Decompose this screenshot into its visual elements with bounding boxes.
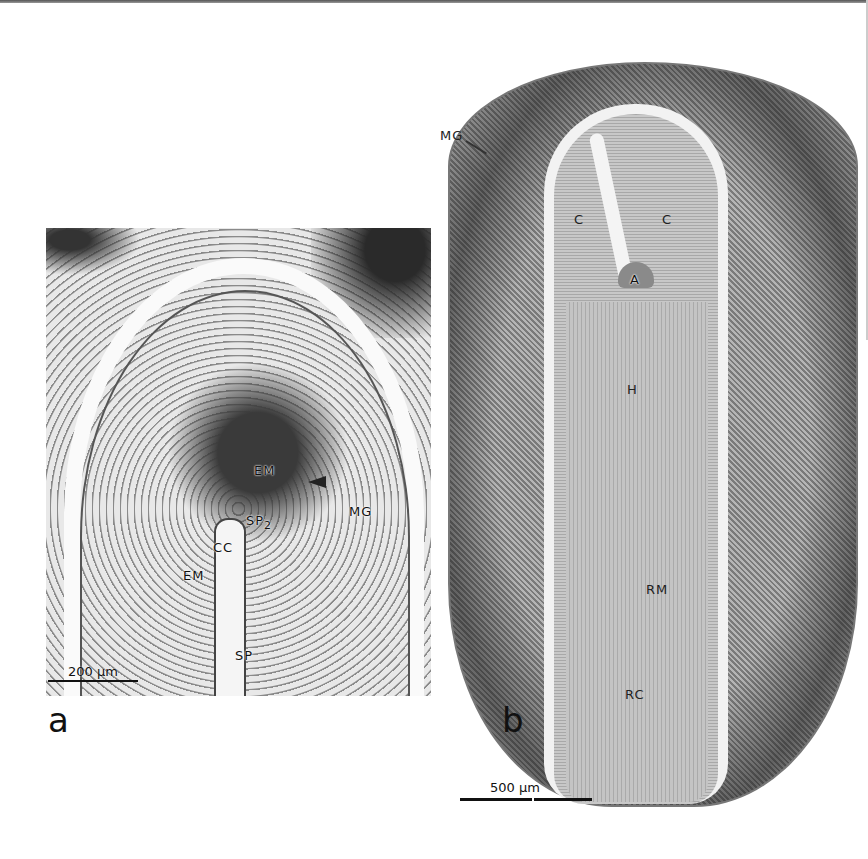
micrograph-panel-a	[46, 228, 431, 696]
label-c-left: C	[574, 212, 584, 227]
scale-bar-a	[48, 680, 138, 682]
micrograph-panel-b	[448, 62, 858, 807]
label-rm: RM	[646, 582, 668, 597]
scale-bar-b-right	[534, 798, 592, 801]
label-cc: CC	[213, 540, 233, 555]
arrowhead-icon	[308, 476, 326, 488]
scale-bar-b-left	[460, 798, 532, 801]
label-sp2: SP2	[246, 513, 272, 532]
label-mg-a: MG	[349, 504, 372, 519]
label-c-right: C	[662, 212, 672, 227]
integument-dark-region-left	[46, 228, 166, 288]
hypocotyl-region	[566, 302, 708, 802]
label-sp2-main: SP	[246, 513, 264, 528]
label-mg-b: MG	[440, 128, 463, 143]
scale-bar-a-label: 200 µm	[68, 664, 118, 679]
label-em-upper: EM	[254, 463, 275, 478]
label-h: H	[627, 382, 638, 397]
label-sp: SP	[235, 648, 253, 663]
panel-letter-a: a	[48, 700, 69, 740]
top-border-rule	[0, 0, 868, 3]
label-a: A	[630, 272, 640, 287]
panel-letter-b: b	[502, 700, 524, 740]
scale-bar-b-label: 500 µm	[490, 780, 540, 795]
label-sp2-sub: 2	[264, 519, 272, 532]
label-em-lower: EM	[183, 568, 204, 583]
label-rc: RC	[625, 687, 644, 702]
